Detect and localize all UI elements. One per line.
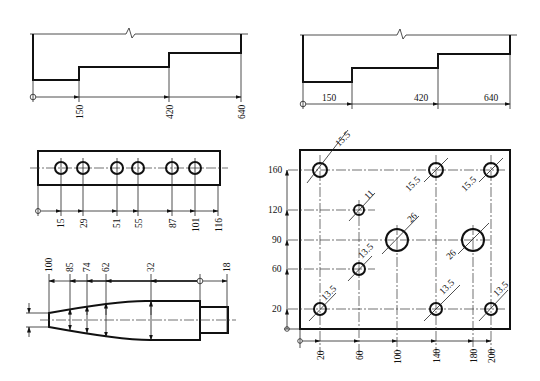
hole-diameter-label: 26 xyxy=(405,210,419,224)
hole-diameter-label: 13.5 xyxy=(437,277,456,296)
dim-label: 116 xyxy=(214,218,224,232)
x-dim-label: 200 xyxy=(487,349,497,364)
y-dim-label: 120 xyxy=(268,205,283,215)
y-dim-label: 60 xyxy=(272,264,282,274)
hole-diameter-label: 15.5 xyxy=(333,129,352,148)
dim-label: 85 xyxy=(65,262,75,272)
tapered-shaft: 100 85 74 62 32 18 xyxy=(26,258,236,341)
stepped-profile-horizontal-dims: 150 420 640 xyxy=(300,29,517,109)
hole-diameter-label: 15.5 xyxy=(459,174,478,193)
dim-label: 18 xyxy=(222,262,232,272)
dim-label: 15 xyxy=(56,218,66,228)
dim-label: 74 xyxy=(82,262,92,272)
y-dim-label: 20 xyxy=(272,304,282,314)
y-dim-label: 90 xyxy=(272,235,282,245)
dim-label: 87 xyxy=(168,218,178,228)
x-dim-label: 140 xyxy=(432,349,442,364)
dim-label: 640 xyxy=(237,105,247,120)
plate-with-holes: 15.5 15.5 15.5 11 26 26 13.5 13.5 13.5 1… xyxy=(268,129,510,364)
dim-label: 62 xyxy=(101,262,111,272)
x-dim-label: 20 xyxy=(316,350,326,360)
dim-label: 51 xyxy=(112,218,122,228)
hole-diameter-label: 11 xyxy=(362,188,376,202)
dim-label: 101 xyxy=(191,218,201,233)
dim-label: 150 xyxy=(322,93,337,103)
dim-label: 55 xyxy=(134,218,144,228)
dim-label: 32 xyxy=(146,262,156,272)
dim-label: 420 xyxy=(414,93,429,103)
hole-diameter-label: 13.5 xyxy=(319,283,338,302)
dim-label: 420 xyxy=(165,105,175,120)
bar-with-holes: 15 29 51 55 87 101 116 xyxy=(30,151,228,232)
hole-diameter-label: 13.5 xyxy=(491,279,510,298)
hole-diameter-label: 15.5 xyxy=(403,174,422,193)
x-dim-label: 60 xyxy=(355,350,365,360)
dim-label: 100 xyxy=(44,258,54,273)
dim-label: 640 xyxy=(484,93,499,103)
y-dim-label: 160 xyxy=(268,165,283,175)
stepped-profile-vertical-dims: 150 420 640 xyxy=(30,28,248,119)
hole-diameter-label: 26 xyxy=(444,247,458,261)
x-dim-label: 180 xyxy=(469,349,479,364)
x-dim-label: 100 xyxy=(393,350,403,365)
dim-label: 150 xyxy=(75,105,85,120)
dim-label: 29 xyxy=(79,218,89,228)
technical-drawing-sheet: 150 420 640 150 420 640 xyxy=(0,0,540,381)
